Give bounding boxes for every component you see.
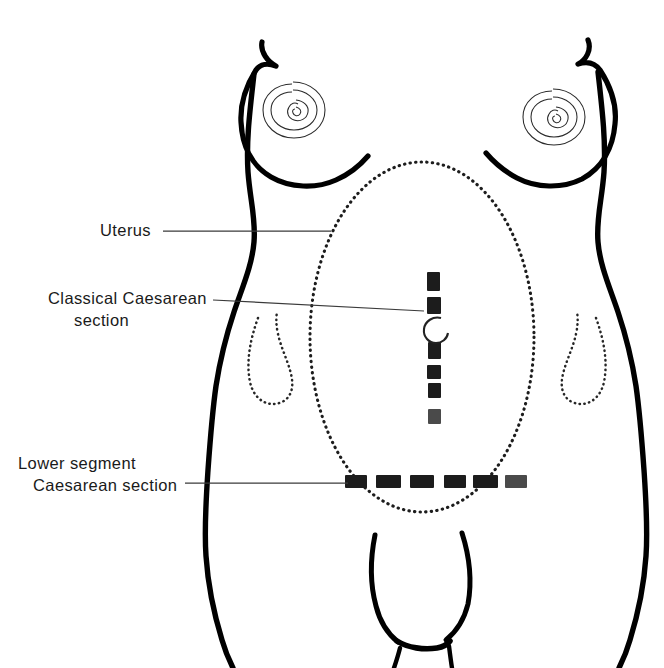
left-thigh-outline	[371, 535, 398, 642]
left-nipple	[263, 82, 325, 138]
perineum-outline	[397, 641, 450, 649]
lower-segment-caesarean-label-line2: Caesarean section	[33, 476, 177, 494]
right-breast-outline	[486, 40, 615, 186]
classical-caesarean-label-line1: Classical Caesarean	[48, 289, 207, 307]
right-nipple	[523, 89, 585, 145]
lower-segment-transverse-incision	[345, 475, 527, 488]
left-groin-crease	[248, 312, 292, 404]
classical-caesarean-leader-line	[213, 300, 424, 311]
uterus-label: Uterus	[100, 221, 151, 239]
figure-canvas: Uterus Classical Caesarean section Lower…	[0, 0, 664, 668]
left-leg-inner-line	[394, 648, 400, 668]
right-leg-inner-line	[449, 646, 452, 668]
uterus-dotted-ellipse	[310, 162, 534, 512]
caesarean-section-diagram: Uterus Classical Caesarean section Lower…	[0, 0, 664, 668]
left-torso-outline	[205, 74, 254, 668]
left-breast-outline	[241, 42, 368, 186]
classical-caesarean-label-line2: section	[74, 311, 129, 329]
lower-segment-caesarean-label-line1: Lower segment	[18, 454, 136, 472]
umbilicus	[424, 318, 448, 343]
classical-vertical-incision	[427, 272, 441, 424]
body-outline-group	[205, 40, 647, 668]
right-groin-crease	[562, 312, 606, 404]
right-thigh-outline	[446, 533, 470, 640]
